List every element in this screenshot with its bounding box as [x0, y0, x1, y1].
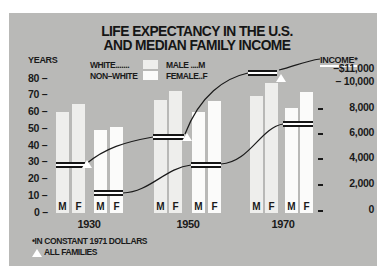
income-marker-1930-white [56, 162, 85, 168]
income-marker-1950-nonwhite [191, 162, 221, 168]
x-label-1950: 1950 [168, 218, 208, 230]
income-marker-1970-nonwhite [283, 121, 313, 127]
income-marker-1970-white [248, 70, 277, 76]
income-marker-1950-white [153, 134, 184, 140]
all-families-triangle-1950 [182, 133, 192, 141]
footnote-all-families: ALL FAMILIES [44, 247, 97, 257]
x-label-1930: 1930 [69, 218, 109, 230]
x-label-1970: 1970 [263, 218, 303, 230]
footnote-constant-dollars: •IN CONSTANT 1971 DOLLARS [32, 236, 147, 246]
all-families-triangle-1930 [82, 160, 92, 168]
footnote-triangle-icon [32, 249, 42, 257]
all-families-triangle-1970 [276, 74, 286, 82]
income-marker-1930-nonwhite [94, 190, 123, 196]
